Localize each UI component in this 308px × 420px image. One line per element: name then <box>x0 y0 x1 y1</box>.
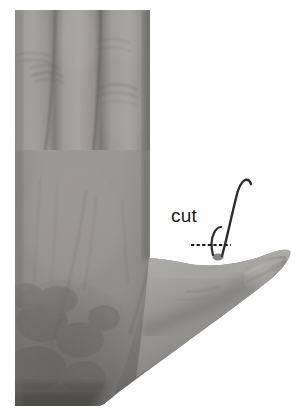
left-edge-shadow <box>15 10 23 406</box>
right-edge-shadow <box>142 10 150 260</box>
cut-annotation-label: cut <box>171 205 197 227</box>
figure-root: cut <box>0 0 308 420</box>
hand-photograph-canvas <box>0 0 308 420</box>
hand-photograph <box>0 0 308 420</box>
